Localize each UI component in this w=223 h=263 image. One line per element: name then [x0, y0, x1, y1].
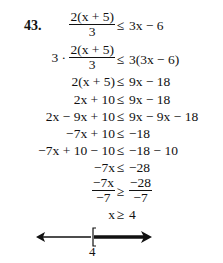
- number-line: [0, 0, 223, 263]
- left-arrow-icon: [36, 232, 91, 242]
- shaded-ray: [94, 231, 152, 243]
- endpoint-label: 4: [89, 244, 96, 260]
